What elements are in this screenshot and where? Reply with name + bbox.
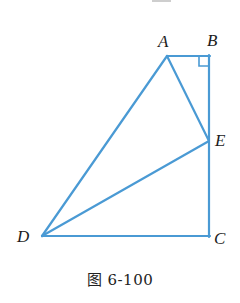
vertex-label-b: B <box>207 32 217 49</box>
vertex-label-d: D <box>17 228 29 245</box>
geometry-figure-page: A B C D E 图 6-100 <box>0 0 240 303</box>
vertex-label-c: C <box>214 230 225 247</box>
segment-DE <box>42 141 209 236</box>
right-angle-marker-B <box>199 57 208 66</box>
vertex-label-a: A <box>158 33 168 50</box>
vertex-label-e: E <box>215 132 225 149</box>
segment-DA <box>42 56 167 236</box>
segment-AE <box>167 56 209 141</box>
figure-caption: 图 6-100 <box>0 268 240 289</box>
geometry-diagram <box>0 0 240 303</box>
